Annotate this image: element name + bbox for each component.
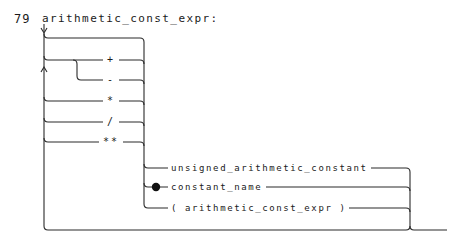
operator-plus: +: [103, 55, 119, 65]
constant-name-marker-layer: [0, 0, 463, 237]
rule-name: arithmetic_const_expr:: [42, 12, 219, 25]
operator-multiply: *: [103, 96, 119, 106]
filled-dot-icon: [152, 183, 160, 191]
operator-power: **: [99, 137, 123, 147]
rule-number: 79: [14, 12, 30, 26]
alternative-unsigned-arithmetic-constant: unsigned_arithmetic_constant: [168, 163, 371, 173]
alternative-constant-name: constant_name: [168, 182, 265, 192]
operator-minus: -: [103, 75, 119, 85]
syntax-diagram: 79 arithmetic_const_expr: + - * / ** uns…: [0, 0, 463, 237]
alternative-parenthesized-expr: ( arithmetic_const_expr ): [168, 203, 349, 213]
operator-divide: /: [103, 117, 119, 127]
